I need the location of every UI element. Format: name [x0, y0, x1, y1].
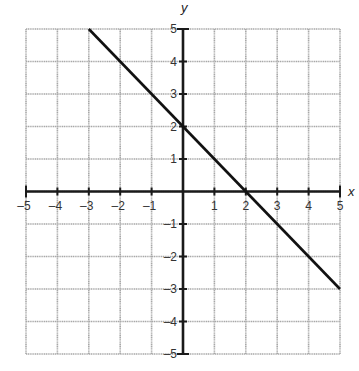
x-tick-label: –1 — [143, 199, 157, 213]
x-tick-labels: –5–4–3–2–112345 — [17, 199, 343, 213]
y-tick-label: –2 — [164, 250, 178, 264]
axes — [26, 29, 340, 354]
y-tick-label: –1 — [164, 217, 178, 231]
x-tick-label: –4 — [49, 199, 63, 213]
y-tick-label: 1 — [170, 152, 177, 166]
y-axis-label: y — [180, 0, 189, 15]
x-tick-label: –3 — [80, 199, 94, 213]
y-tick-label: –5 — [164, 347, 178, 361]
x-tick-label: 4 — [305, 199, 312, 213]
y-tick-label: 5 — [170, 22, 177, 36]
x-tick-label: 1 — [211, 199, 218, 213]
y-tick-label: –3 — [164, 282, 178, 296]
coordinate-plane: –5–4–3–2–112345 –5–4–3–2–112345 x y — [0, 0, 359, 371]
x-tick-label: 2 — [242, 199, 249, 213]
y-tick-label: –4 — [164, 315, 178, 329]
y-tick-label: 4 — [170, 55, 177, 69]
x-tick-label: –5 — [17, 199, 31, 213]
y-tick-label: 3 — [170, 87, 177, 101]
x-tick-label: 5 — [337, 199, 344, 213]
x-axis-label: x — [347, 184, 355, 199]
x-tick-label: 3 — [274, 199, 281, 213]
x-tick-label: –2 — [112, 199, 126, 213]
y-tick-label: 2 — [170, 120, 177, 134]
